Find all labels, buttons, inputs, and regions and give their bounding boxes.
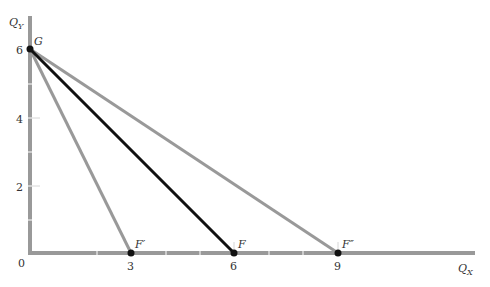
point-F-prime <box>128 250 135 257</box>
x-axis-label: QX <box>458 262 473 277</box>
y-tick-2: 2 <box>16 181 23 194</box>
line-G-F-double-prime <box>30 49 338 253</box>
point-F-double-prime <box>335 250 342 257</box>
origin-label: 0 <box>18 257 25 270</box>
y-tick-6: 6 <box>16 44 23 57</box>
label-G: G <box>34 35 43 48</box>
line-G-F <box>30 49 234 253</box>
y-tick-4: 4 <box>16 113 23 126</box>
point-F <box>231 250 238 257</box>
line-G-F-prime <box>30 49 131 253</box>
y-axis-label: QY <box>9 16 24 31</box>
point-G <box>27 46 34 53</box>
tick-guides <box>32 118 338 251</box>
budget-line-chart: QY QX 0 3 6 9 2 4 6 G F′ F F″ <box>0 0 490 287</box>
label-F-prime: F′ <box>134 238 146 251</box>
x-tick-3: 3 <box>127 260 134 273</box>
axis-ticks <box>28 84 303 255</box>
x-tick-6: 6 <box>230 260 237 273</box>
label-F: F <box>237 238 246 251</box>
x-tick-9: 9 <box>334 260 341 273</box>
label-F-double-prime: F″ <box>341 238 355 251</box>
